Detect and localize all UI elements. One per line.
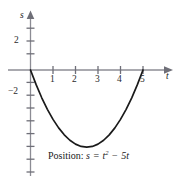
x-tick-label-2: 2: [72, 75, 77, 85]
x-tick-label-1: 1: [50, 75, 55, 85]
caption-exponent: 2: [105, 149, 108, 156]
figure-caption: Position: s = t2 − 5t: [0, 150, 177, 161]
x-axis-label: t: [166, 72, 169, 82]
x-tick-label-4: 4: [117, 75, 122, 85]
caption-prefix: Position:: [48, 150, 84, 161]
position-function-graph: s t 2 −2 1 2 3 4 5 Position: s = t2 − 5t: [0, 0, 177, 179]
caption-minus: −: [111, 150, 119, 161]
caption-lhs: s: [86, 150, 90, 161]
y-axis-label: s: [20, 11, 24, 21]
y-tick-label-neg2: −2: [8, 87, 18, 97]
x-tick-label-5: 5: [140, 75, 145, 85]
y-tick-label-2: 2: [14, 36, 19, 46]
position-curve: [31, 70, 144, 147]
caption-equals: =: [92, 150, 100, 161]
y-axis-arrowhead: [27, 11, 35, 20]
caption-term: 5t: [121, 150, 129, 161]
x-tick-label-3: 3: [95, 75, 100, 85]
